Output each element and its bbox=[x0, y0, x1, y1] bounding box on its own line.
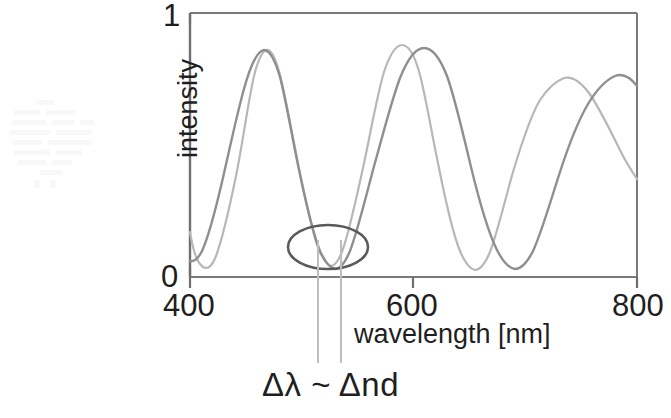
y-axis-title: intensity bbox=[175, 49, 202, 169]
annotation-leader-lines bbox=[318, 240, 341, 363]
x-axis-tick-label-800: 800 bbox=[612, 290, 664, 321]
highlight-ellipse bbox=[288, 225, 368, 269]
annotation-caption: Δλ ~ Δnd bbox=[262, 368, 399, 401]
series-curve-a bbox=[190, 45, 637, 270]
x-axis-title: wavelength [nm] bbox=[354, 321, 551, 348]
figure-container: 1 0 400 600 800 intensity wavelength [nm… bbox=[0, 0, 671, 418]
spectrum-plot bbox=[0, 0, 671, 418]
x-axis-tick-label-400: 400 bbox=[163, 290, 215, 321]
x-axis-tick-label-600: 600 bbox=[386, 290, 438, 321]
series-curve-b bbox=[190, 48, 637, 269]
y-axis-tick-label-top: 1 bbox=[163, 0, 180, 31]
